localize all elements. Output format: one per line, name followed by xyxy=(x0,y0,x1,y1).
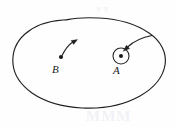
tangent-vector-B-shaft xyxy=(62,42,72,55)
diagram-canvas xyxy=(0,0,177,126)
point-label-A: A xyxy=(113,65,120,76)
closed-region-boundary xyxy=(13,18,166,108)
incoming-vector-A-shaft xyxy=(128,36,153,48)
point-label-B: B xyxy=(52,64,59,75)
point-dot-A xyxy=(119,54,123,58)
figure-container: vv B A MMM xyxy=(0,0,177,126)
tangent-vector-B-arrowhead xyxy=(71,40,77,45)
